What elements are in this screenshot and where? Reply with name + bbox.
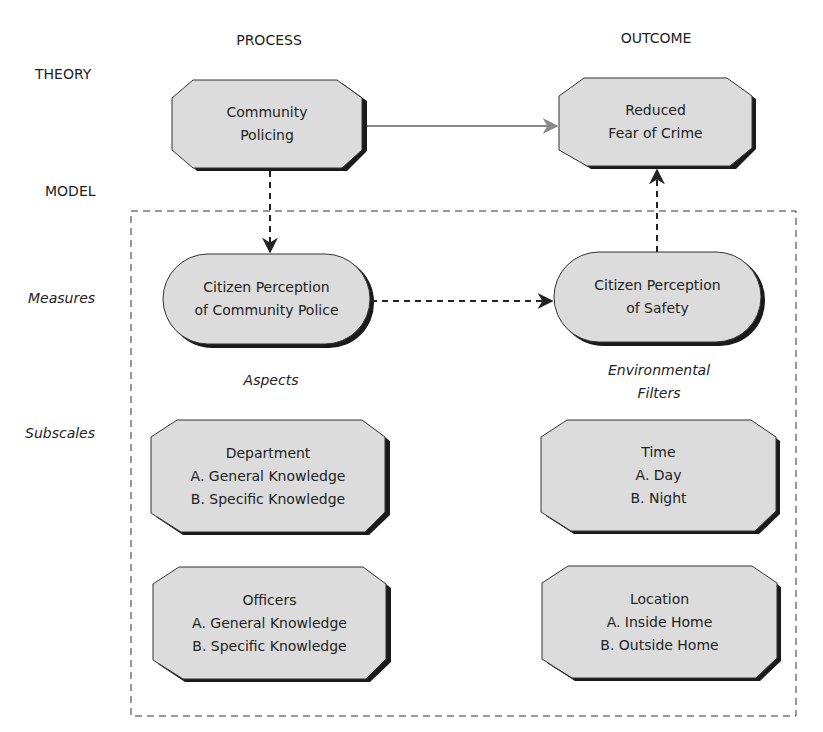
node-community-policing: Community Policing — [172, 80, 362, 168]
node-perception-safety: Citizen Perception of Safety — [554, 252, 761, 342]
node-line: Citizen Perception — [594, 274, 720, 297]
node-location: Location A. Inside Home B. Outside Home — [542, 566, 777, 678]
node-perception-police: Citizen Perception of Community Police — [163, 254, 370, 344]
node-line: Location — [630, 588, 689, 611]
node-line: B. Outside Home — [600, 634, 718, 657]
node-line: Reduced — [625, 99, 686, 122]
node-line: A. General Knowledge — [192, 612, 347, 635]
node-line: Policing — [240, 124, 294, 147]
node-time: Time A. Day B. Night — [541, 420, 776, 531]
node-reduced-fear: Reduced Fear of Crime — [559, 78, 752, 166]
node-line: B. Night — [630, 487, 686, 510]
node-line: of Safety — [626, 297, 689, 320]
node-line: A. Inside Home — [607, 611, 713, 634]
node-line: B. Specific Knowledge — [191, 488, 345, 511]
node-line: Officers — [243, 589, 297, 612]
node-line: A. Day — [636, 464, 682, 487]
node-line: Community — [226, 101, 307, 124]
node-officers: Officers A. General Knowledge B. Specifi… — [153, 567, 386, 679]
node-line: B. Specific Knowledge — [192, 635, 346, 658]
node-line: Citizen Perception — [203, 276, 329, 299]
node-line: Time — [641, 441, 675, 464]
node-line: Department — [226, 442, 311, 465]
node-line: A. General Knowledge — [191, 465, 346, 488]
node-department: Department A. General Knowledge B. Speci… — [151, 420, 385, 532]
node-line: Fear of Crime — [608, 122, 702, 145]
node-line: of Community Police — [194, 299, 338, 322]
